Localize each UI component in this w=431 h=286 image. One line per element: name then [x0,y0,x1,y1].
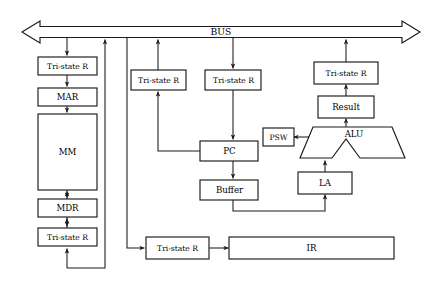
tri-state-r-pc-in-label: Tri-state R [213,76,254,85]
ir-label: IR [307,243,317,253]
block-mdr[interactable]: MDR [38,199,97,217]
block-tri-state-r-mdr[interactable]: Tri-state R [38,228,97,246]
psw-label: PSW [269,133,287,142]
tri-state-r-ir-label: Tri-state R [157,244,198,253]
mm-label: MM [59,147,77,157]
mdr-label: MDR [56,203,79,213]
buffer-label: Buffer [216,185,244,195]
block-tri-state-r-pc-in[interactable]: Tri-state R [205,70,261,90]
result-label: Result [332,102,360,112]
block-result[interactable]: Result [318,96,374,118]
block-tri-state-r-result[interactable]: Tri-state R [314,62,378,84]
block-tri-state-r-pc-out[interactable]: Tri-state R [131,70,186,90]
block-psw[interactable]: PSW [263,128,294,146]
mar-label: MAR [57,92,79,102]
block-alu[interactable]: ALU [300,127,405,158]
diagram-canvas: BUS [0,0,431,286]
tri-state-r-mar-label: Tri-state R [47,62,88,71]
block-tri-state-r-mar[interactable]: Tri-state R [38,57,97,75]
block-la[interactable]: LA [298,172,352,194]
block-ir[interactable]: IR [229,237,394,259]
pc-label: PC [223,146,236,156]
bus-label: BUS [211,26,232,37]
tri-state-r-mdr-label: Tri-state R [47,233,88,242]
alu-label: ALU [344,129,364,139]
block-mar[interactable]: MAR [38,88,97,106]
tri-state-r-pc-out-label: Tri-state R [138,76,179,85]
block-tri-state-r-ir[interactable]: Tri-state R [146,237,209,259]
block-mm[interactable]: MM [38,114,97,190]
block-buffer[interactable]: Buffer [200,180,258,200]
block-pc[interactable]: PC [200,141,258,161]
la-label: LA [319,178,332,188]
tri-state-r-result-label: Tri-state R [326,69,367,78]
cpu-datapath-diagram: BUS [0,0,431,286]
